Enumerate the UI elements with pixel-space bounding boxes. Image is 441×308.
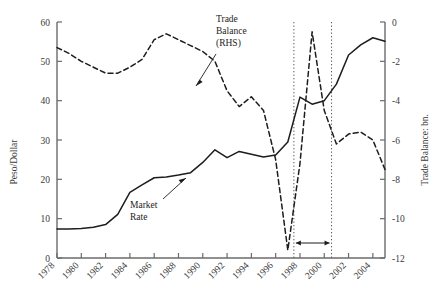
right-tick-label: -4 (392, 96, 400, 106)
right-tick-label: -12 (392, 254, 405, 264)
left-tick-label: 30 (41, 136, 51, 146)
market-rate-annotation-line2: Rate (130, 212, 147, 222)
right-tick-label: -8 (392, 175, 400, 185)
x-tick-label: 1980 (60, 260, 81, 281)
span-arrow-head-right (325, 240, 330, 245)
trade-balance-annotation-line1: Trade (216, 14, 238, 24)
left-tick-label: 50 (41, 57, 51, 67)
crisis-span-arrow (296, 240, 330, 245)
right-tick-label: -10 (392, 214, 405, 224)
x-axis-ticks: 1978198019821984198619881990199219941996… (36, 253, 373, 281)
x-tick-label: 1988 (157, 260, 178, 281)
left-tick-label: 40 (41, 96, 51, 106)
x-tick-label: 1994 (230, 260, 251, 281)
x-tick-label: 1984 (109, 260, 130, 281)
x-tick-label: 1982 (85, 260, 106, 281)
x-tick-label: 2000 (303, 260, 324, 281)
market-rate-annotation: Market Rate (130, 178, 186, 222)
x-tick-label: 1992 (206, 260, 227, 281)
y-axis-title: Peso/Dollar (9, 139, 19, 185)
x-tick-label: 1978 (36, 260, 57, 281)
right-tick-label: -2 (392, 57, 400, 67)
series-line-trade-balance-rhs (57, 32, 385, 250)
right-axis-ticks: 0-2-4-6-8-10-12 (380, 18, 405, 264)
trade-balance-annotation-arrowhead (196, 79, 203, 86)
data-series-layer (57, 32, 385, 250)
left-tick-label: 10 (41, 214, 51, 224)
series-line-market-rate (57, 38, 385, 229)
trade-balance-annotation-line3: (RHS) (216, 38, 241, 49)
y2-axis-title: Trade Balance: bn. (420, 114, 430, 186)
market-rate-annotation-line1: Market (130, 200, 158, 210)
left-tick-label: 60 (41, 18, 51, 28)
market-rate-annotation-arrowhead (179, 178, 186, 183)
right-tick-label: -6 (392, 136, 400, 146)
left-tick-label: 20 (41, 175, 51, 185)
right-tick-label: 0 (392, 18, 397, 28)
x-tick-label: 1998 (279, 260, 300, 281)
x-tick-label: 1986 (133, 260, 154, 281)
trade-balance-annotation: Trade Balance (RHS) (196, 14, 247, 86)
trade-balance-annotation-line2: Balance (216, 26, 247, 36)
chart-svg: 0102030405060 0-2-4-6-8-10-12 1978198019… (0, 0, 441, 308)
chart-figure: 0102030405060 0-2-4-6-8-10-12 1978198019… (0, 0, 441, 308)
span-arrow-head-left (296, 240, 301, 245)
left-axis-ticks: 0102030405060 (41, 18, 63, 264)
x-tick-label: 2004 (352, 260, 373, 281)
x-tick-label: 2002 (327, 260, 348, 281)
x-tick-label: 1996 (255, 260, 276, 281)
crisis-window-markers (294, 22, 332, 258)
x-tick-label: 1990 (182, 260, 203, 281)
